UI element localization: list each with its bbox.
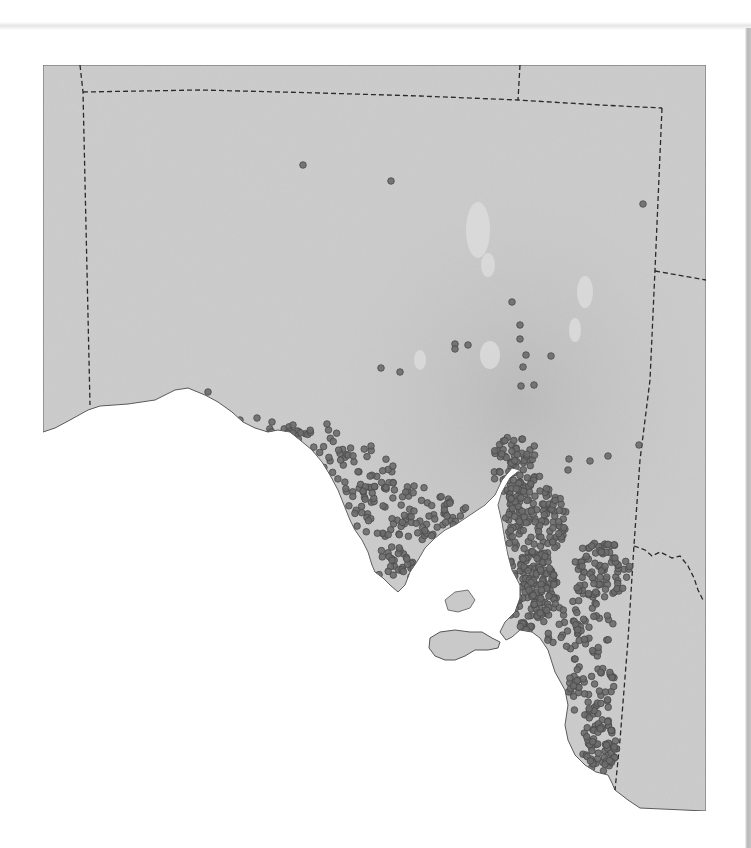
- observation-point: [502, 437, 509, 444]
- observation-point: [489, 572, 496, 579]
- observation-point: [479, 550, 486, 557]
- observation-point: [551, 581, 558, 588]
- observation-point: [513, 585, 520, 592]
- observation-point: [528, 481, 535, 488]
- observation-point: [461, 524, 468, 531]
- observation-point: [541, 618, 548, 625]
- observation-point: [471, 537, 478, 544]
- observation-point: [510, 591, 517, 598]
- observation-point: [487, 573, 494, 580]
- observation-point: [548, 353, 555, 360]
- observation-point: [491, 448, 498, 455]
- observation-point: [591, 613, 598, 620]
- observation-point: [506, 590, 513, 597]
- observation-point: [342, 479, 349, 486]
- observation-point: [485, 556, 492, 563]
- observation-point: [350, 493, 357, 500]
- observation-point: [498, 451, 505, 458]
- observation-point: [589, 575, 596, 582]
- observation-point: [586, 624, 593, 631]
- observation-point: [520, 527, 527, 534]
- observation-point: [324, 421, 331, 428]
- observation-point: [567, 675, 574, 682]
- observation-point: [322, 473, 329, 480]
- observation-point: [552, 497, 559, 504]
- observation-point: [556, 530, 563, 537]
- observation-point: [586, 706, 593, 713]
- observation-point: [492, 565, 499, 572]
- observation-point: [473, 539, 480, 546]
- observation-point: [418, 497, 425, 504]
- observation-point: [292, 446, 299, 453]
- observation-point: [465, 577, 472, 584]
- observation-point: [489, 595, 496, 602]
- observation-point: [542, 553, 549, 560]
- observation-point: [581, 691, 588, 698]
- observation-point: [501, 577, 508, 584]
- observation-point: [352, 510, 359, 517]
- top-edge-shadow: [0, 22, 751, 30]
- observation-point: [579, 574, 586, 581]
- observation-point: [580, 616, 587, 623]
- observation-point: [512, 594, 519, 601]
- observation-point: [517, 322, 524, 329]
- observation-point: [350, 453, 357, 460]
- observation-point: [257, 433, 264, 440]
- observation-point: [428, 532, 435, 539]
- observation-point: [422, 527, 429, 534]
- observation-point: [390, 572, 397, 579]
- observation-point: [390, 521, 397, 528]
- observation-point: [480, 600, 487, 607]
- observation-point: [574, 626, 581, 633]
- observation-point: [591, 681, 598, 688]
- observation-point: [545, 637, 552, 644]
- observation-point: [479, 551, 486, 558]
- observation-point: [592, 560, 599, 567]
- observation-point: [595, 644, 602, 651]
- observation-point: [475, 602, 482, 609]
- observation-point: [528, 579, 535, 586]
- observation-point: [442, 519, 449, 526]
- observation-point: [470, 540, 477, 547]
- right-edge-scrollbar[interactable]: [745, 28, 751, 848]
- observation-point: [284, 430, 291, 437]
- observation-point: [537, 595, 544, 602]
- observation-point: [480, 547, 487, 554]
- observation-point: [477, 583, 484, 590]
- observation-point: [525, 613, 532, 620]
- observation-point: [333, 430, 340, 437]
- observation-point: [636, 442, 643, 449]
- observation-point: [566, 456, 573, 463]
- observation-point: [491, 558, 498, 565]
- observation-point: [365, 517, 372, 524]
- observation-point: [606, 757, 613, 764]
- observation-point: [388, 544, 395, 551]
- observation-point: [528, 534, 535, 541]
- observation-point: [378, 547, 385, 554]
- observation-point: [608, 727, 615, 734]
- observation-point: [518, 495, 525, 502]
- observation-point: [390, 480, 397, 487]
- observation-point: [335, 476, 342, 483]
- observation-point: [452, 346, 459, 353]
- observation-point: [432, 516, 439, 523]
- observation-point: [421, 484, 428, 491]
- observation-point: [519, 436, 526, 443]
- observation-point: [445, 537, 452, 544]
- observation-point: [467, 581, 474, 588]
- observation-point: [524, 475, 531, 482]
- observation-point: [605, 704, 612, 711]
- observation-point: [512, 457, 519, 464]
- observation-point: [505, 580, 512, 587]
- observation-point: [589, 747, 596, 754]
- observation-point: [509, 448, 516, 455]
- observation-point: [368, 443, 375, 450]
- observation-point: [520, 364, 527, 371]
- observation-point: [575, 597, 582, 604]
- observation-point: [297, 442, 304, 449]
- observation-point: [579, 563, 586, 570]
- observation-point: [506, 579, 513, 586]
- observation-point: [503, 584, 510, 591]
- observation-point: [488, 548, 495, 555]
- observation-point: [531, 452, 538, 459]
